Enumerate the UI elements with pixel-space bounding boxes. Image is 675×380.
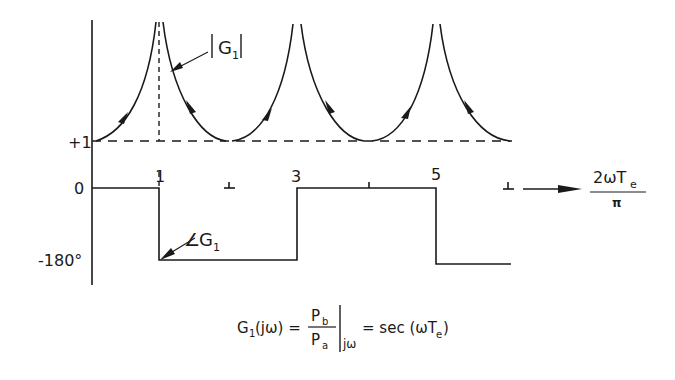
magnitude-curve-fall-1 — [163, 22, 226, 141]
y-label-plus-one: +1 — [68, 133, 92, 152]
equation-eval-sub: jω — [342, 337, 356, 351]
equation-rhs-close: ) — [443, 319, 449, 337]
x-tick-label-1: 1 — [155, 167, 165, 186]
x-axis-label-denominator: π — [612, 196, 622, 210]
phase-label-sub: 1 — [213, 241, 220, 254]
phase-square-wave — [92, 188, 511, 264]
x-tick-label-5: 5 — [431, 165, 441, 184]
frequency-response-diagram: G 1 +1 0 -180° 1 3 5 2ωT e π ∠ G 1 G 1 (… — [0, 0, 675, 380]
equation-numerator: P — [311, 307, 320, 325]
arrow-right-icon — [558, 185, 582, 193]
magnitude-curve-fall-3 — [440, 24, 510, 141]
equation-denominator: P — [311, 331, 320, 349]
magnitude-label-sub: 1 — [232, 49, 239, 62]
x-axis-label-numerator: 2ωT — [593, 168, 627, 187]
x-axis-label-numerator-sub: e — [630, 178, 637, 191]
equation-denominator-sub: a — [322, 340, 328, 351]
magnitude-curve-rise-3 — [372, 24, 433, 141]
x-tick-label-3: 3 — [291, 167, 301, 186]
magnitude-curve-rise-1 — [96, 22, 156, 141]
equation-rhs: = sec (ωT — [362, 319, 438, 337]
arrow-icon — [262, 108, 272, 121]
transfer-function-equation: G 1 (jω) = P b P a jω = sec (ωT e ) — [237, 305, 449, 352]
arrow-icon — [325, 100, 335, 114]
equation-numerator-sub: b — [322, 316, 328, 327]
magnitude-label: G — [218, 37, 232, 58]
y-label-minus-180: -180° — [38, 251, 82, 270]
phase-label: G — [199, 229, 213, 250]
magnitude-curve-fall-2 — [301, 24, 364, 141]
equation-lhs: G — [237, 319, 249, 337]
magnitude-label-leader — [181, 52, 208, 66]
y-label-zero: 0 — [74, 179, 84, 198]
arrow-icon — [160, 248, 175, 260]
equation-lhs-arg: (jω) = — [255, 319, 301, 337]
equation-rhs-sub: e — [436, 329, 442, 340]
arrow-icon — [401, 106, 411, 119]
